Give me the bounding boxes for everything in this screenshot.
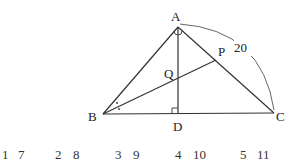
label-c: C: [276, 109, 285, 124]
label-b: B: [88, 109, 97, 124]
choice-5-number[interactable]: 5: [240, 147, 247, 162]
choice-3-value[interactable]: 9: [133, 147, 140, 162]
choice-1-value[interactable]: 7: [18, 147, 25, 162]
choice-4-number[interactable]: 4: [175, 147, 182, 162]
angle-dot-2: [118, 108, 120, 110]
triangle-diagram: A B C D P Q 20 1 7 2 8 3 9 4 10 5 11: [0, 0, 297, 166]
choice-5-value[interactable]: 11: [257, 147, 270, 162]
label-a: A: [171, 9, 181, 24]
choice-4-value[interactable]: 10: [193, 147, 206, 162]
side-ac: [178, 27, 274, 113]
bisector-bp: [103, 60, 216, 114]
length-arc-ac: [180, 24, 274, 110]
angle-dot-1: [116, 102, 118, 104]
side-bc: [103, 113, 274, 114]
label-p: P: [218, 44, 225, 59]
answer-choices: 1 7 2 8 3 9 4 10 5 11: [2, 147, 270, 162]
choice-2-value[interactable]: 8: [73, 147, 80, 162]
choice-1-number[interactable]: 1: [2, 147, 9, 162]
label-q: Q: [164, 66, 174, 81]
label-d: D: [173, 119, 182, 134]
choice-2-number[interactable]: 2: [55, 147, 62, 162]
arc-length-label: 20: [234, 40, 247, 55]
choice-3-number[interactable]: 3: [115, 147, 122, 162]
